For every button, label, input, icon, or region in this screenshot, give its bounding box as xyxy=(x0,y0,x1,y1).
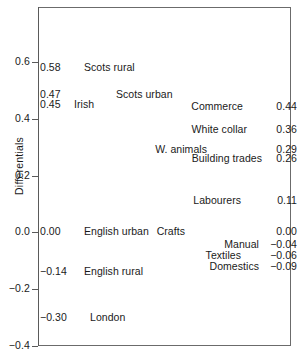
data-label-name: Labourers xyxy=(193,194,241,206)
data-label-name: London xyxy=(90,311,125,323)
y-tick-label: 0.0 xyxy=(0,225,30,237)
chart-container: Differentials 0.60.40.20.0−0.2−0.4 0.58S… xyxy=(0,0,300,357)
y-tick-label: 0.2 xyxy=(0,169,30,181)
data-label-value: −0.14 xyxy=(40,265,70,277)
data-label-name: Textiles xyxy=(206,249,241,261)
y-tick-mark xyxy=(32,346,38,347)
data-label-inner: White collar0.36 xyxy=(192,123,297,135)
data-label-inner: 0.45Irish xyxy=(40,98,94,110)
data-label-value: −0.06 xyxy=(263,249,297,261)
data-label-name: Crafts xyxy=(157,225,185,237)
data-label-inner: Commerce0.44 xyxy=(191,100,297,112)
data-label-inner: Textiles−0.06 xyxy=(206,249,297,261)
y-tick-mark xyxy=(32,119,38,120)
data-label-inner: −0.30London xyxy=(40,311,125,323)
data-label-name: Commerce xyxy=(191,100,243,112)
y-tick-label: 0.6 xyxy=(0,55,30,67)
data-label-inner: Domestics−0.09 xyxy=(210,260,297,272)
data-label-inner: −0.14English rural xyxy=(40,265,143,277)
data-label-value: 0.44 xyxy=(263,100,297,112)
y-tick-label: −0.4 xyxy=(0,339,30,351)
data-label-value: 0.11 xyxy=(263,194,297,206)
data-label-name: English rural xyxy=(84,265,143,277)
data-label-inner: Crafts0.00 xyxy=(157,225,297,237)
data-label-value: 0.00 xyxy=(263,225,297,237)
data-label-name: Scots urban xyxy=(116,88,173,100)
data-label-name: Irish xyxy=(74,98,94,110)
plot-frame xyxy=(38,7,291,346)
data-label-name: White collar xyxy=(192,123,247,135)
y-tick-label: 0.4 xyxy=(0,112,30,124)
data-label-value: 0.58 xyxy=(40,61,70,73)
y-axis-title: Differentials xyxy=(13,116,25,216)
y-tick-mark xyxy=(32,289,38,290)
data-label-value: 0.36 xyxy=(263,123,297,135)
y-tick-mark xyxy=(32,176,38,177)
data-label-inner: 0.00English urban xyxy=(40,225,149,237)
data-label-inner: Labourers0.11 xyxy=(193,194,297,206)
data-label-value: −0.09 xyxy=(263,260,297,272)
data-label-value: 0.26 xyxy=(263,152,297,164)
y-tick-mark xyxy=(32,62,38,63)
data-label-value: −0.30 xyxy=(40,311,70,323)
data-label-value: 0.45 xyxy=(40,98,70,110)
data-label-name: English urban xyxy=(84,225,149,237)
data-label-inner: Building trades0.26 xyxy=(192,152,297,164)
data-label-name: Building trades xyxy=(192,152,262,164)
y-tick-mark xyxy=(32,232,38,233)
y-tick-label: −0.2 xyxy=(0,282,30,294)
y-axis-line xyxy=(38,7,39,346)
data-label-inner: 0.58Scots rural xyxy=(40,61,135,73)
data-label-name: Domestics xyxy=(210,260,259,272)
data-label-value: 0.00 xyxy=(40,225,70,237)
data-label-name: Scots rural xyxy=(84,61,135,73)
